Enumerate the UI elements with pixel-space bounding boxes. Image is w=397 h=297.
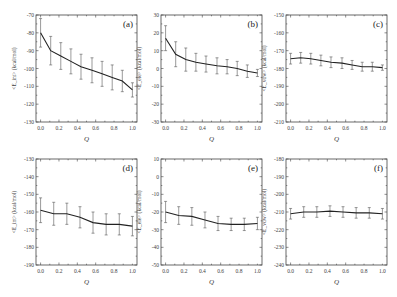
y-tick-label: 0: [156, 66, 159, 72]
x-tick-label: 0.0: [162, 125, 169, 131]
y-tick-label: -180: [274, 66, 284, 72]
x-tick-label: 0.4: [199, 268, 206, 274]
x-tick-label: 0.6: [92, 268, 99, 274]
panel-label: (c): [373, 19, 383, 29]
y-tick-label: -200: [274, 101, 284, 107]
x-tick-label: 0.8: [236, 125, 243, 131]
chart-panel-b: 0.00.20.40.60.81.03020100-10-20-30Q<E_el…: [161, 15, 262, 122]
y-axis-label: <E_ele> (kcal/mol): [136, 190, 143, 233]
x-tick-label: 0.6: [92, 125, 99, 131]
plot-frame: [161, 15, 262, 122]
y-tick-label: -80: [27, 30, 35, 36]
y-tick-label: -210: [274, 209, 284, 215]
y-tick-label: -180: [24, 244, 34, 250]
y-axis-label: <E_int> (kcal/mol): [11, 191, 18, 234]
chart-panel-d: 0.00.20.40.60.81.0-130-140-150-160-170-1…: [36, 159, 137, 265]
plot-frame: [161, 159, 262, 265]
data-line: [291, 211, 383, 214]
plot-frame: [286, 15, 387, 122]
y-tick-label: -210: [274, 119, 284, 125]
y-axis-label: <E_int> (kcal/mol): [11, 47, 18, 90]
x-tick-label: 0.0: [287, 125, 294, 131]
y-tick-label: -230: [274, 244, 284, 250]
data-line: [41, 210, 133, 226]
y-tick-label: -160: [274, 30, 284, 36]
x-tick-label: 0.4: [199, 125, 206, 131]
x-tick-label: 0.0: [37, 125, 44, 131]
x-tick-label: 0.6: [342, 125, 349, 131]
y-tick-label: -220: [274, 227, 284, 233]
x-axis-label: Q: [334, 278, 339, 286]
y-tick-label: -150: [274, 12, 284, 18]
x-tick-label: 0.8: [236, 268, 243, 274]
y-tick-label: -150: [24, 191, 34, 197]
chart-panel-c: 0.00.20.40.60.81.0-150-160-170-180-190-2…: [286, 15, 387, 122]
y-tick-label: -160: [24, 209, 34, 215]
y-axis-label: <E_ele> (kcal/mol): [136, 47, 143, 90]
x-axis-label: Q: [209, 278, 214, 286]
x-tick-label: 0.8: [111, 125, 118, 131]
x-axis-label: Q: [84, 278, 89, 286]
x-tick-label: 0.0: [287, 268, 294, 274]
plot-frame: [36, 159, 137, 265]
x-tick-label: 0.2: [181, 268, 188, 274]
y-tick-label: -110: [24, 83, 34, 89]
y-tick-label: -100: [24, 66, 34, 72]
x-tick-label: 0.6: [217, 125, 224, 131]
y-tick-label: -40: [152, 244, 160, 250]
y-tick-label: 0: [156, 174, 159, 180]
y-tick-label: 20: [154, 30, 160, 36]
x-tick-label: 0.4: [324, 268, 331, 274]
y-tick-label: -140: [24, 174, 34, 180]
x-tick-label: 0.2: [306, 125, 313, 131]
panel-label: (a): [123, 19, 133, 29]
x-tick-label: 0.0: [162, 268, 169, 274]
y-tick-label: -130: [24, 119, 34, 125]
data-line: [166, 38, 258, 73]
x-tick-label: 0.8: [361, 268, 368, 274]
x-tick-label: 1.0: [379, 268, 386, 274]
y-tick-label: -120: [24, 101, 34, 107]
y-tick-label: -10: [152, 191, 160, 197]
x-tick-label: 0.6: [217, 268, 224, 274]
y-tick-label: -170: [24, 227, 34, 233]
data-line: [41, 33, 133, 90]
y-tick-label: -190: [24, 262, 34, 268]
y-axis-label: <E_vdw> (kcal/mol): [261, 45, 268, 91]
x-tick-label: 1.0: [129, 125, 136, 131]
y-tick-label: 10: [154, 48, 160, 54]
y-tick-label: 30: [154, 12, 160, 18]
x-axis-label: Q: [334, 135, 339, 143]
y-axis-label: <E_vdw> (kcal/mol): [261, 189, 268, 235]
data-line: [291, 58, 383, 68]
x-tick-label: 0.6: [342, 268, 349, 274]
x-tick-label: 1.0: [254, 268, 261, 274]
y-tick-label: -180: [274, 156, 284, 162]
y-tick-label: -20: [152, 101, 160, 107]
panel-label: (d): [123, 163, 134, 173]
x-tick-label: 1.0: [254, 125, 261, 131]
panel-label: (e): [248, 163, 258, 173]
x-tick-label: 0.8: [361, 125, 368, 131]
x-axis-label: Q: [84, 135, 89, 143]
y-tick-label: -20: [152, 209, 160, 215]
x-tick-label: 0.8: [111, 268, 118, 274]
panel-label: (f): [374, 163, 383, 173]
y-tick-label: -130: [24, 156, 34, 162]
x-tick-label: 0.4: [74, 268, 81, 274]
x-tick-label: 0.2: [56, 268, 63, 274]
y-tick-label: -240: [274, 262, 284, 268]
x-tick-label: 1.0: [129, 268, 136, 274]
y-tick-label: -30: [152, 227, 160, 233]
y-tick-label: -10: [152, 83, 160, 89]
y-tick-label: -50: [152, 262, 160, 268]
y-tick-label: -190: [274, 83, 284, 89]
x-tick-label: 0.2: [306, 268, 313, 274]
x-tick-label: 0.4: [74, 125, 81, 131]
y-tick-label: -170: [274, 48, 284, 54]
panel-label: (b): [248, 19, 259, 29]
x-tick-label: 0.4: [324, 125, 331, 131]
y-tick-label: -190: [274, 174, 284, 180]
chart-panel-e: 0.00.20.40.60.81.0100-10-20-30-40-50Q<E_…: [161, 159, 262, 265]
y-tick-label: -90: [27, 48, 35, 54]
